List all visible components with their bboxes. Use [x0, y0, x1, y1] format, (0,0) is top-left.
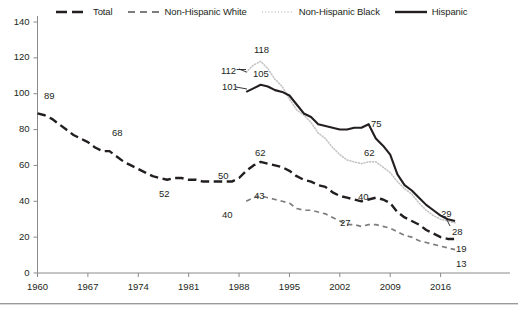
data-point-label: 19: [456, 243, 467, 254]
data-point-label: 68: [112, 127, 123, 138]
data-point-label: 62: [255, 147, 266, 158]
data-point-label: 28: [452, 226, 463, 237]
data-point-label: 89: [44, 90, 55, 101]
data-point-label: 52: [159, 188, 170, 199]
y-axis-tick-label: 60: [0, 159, 30, 170]
x-axis-tick-label: 1995: [269, 281, 309, 292]
y-axis-tick-label: 120: [0, 51, 30, 62]
y-axis-tick-label: 0: [0, 267, 30, 278]
data-point-label: 13: [456, 258, 467, 269]
series-line-non-hispanic-white: [246, 196, 455, 250]
data-point-label: 105: [253, 68, 269, 79]
series-line-total: [38, 113, 456, 239]
series-line-hispanic: [246, 85, 455, 221]
data-point-label: 29: [441, 208, 452, 219]
x-axis-tick-label: 1967: [68, 281, 108, 292]
x-axis-tick-label: 1988: [219, 281, 259, 292]
y-axis-tick-label: 140: [0, 16, 30, 27]
y-axis-tick-label: 80: [0, 123, 30, 134]
x-axis-tick-label: 1960: [18, 281, 58, 292]
x-axis-tick-label: 2016: [421, 281, 461, 292]
data-point-label: 40: [358, 191, 369, 202]
data-point-label: 75: [371, 118, 382, 129]
data-point-label: 43: [254, 190, 265, 201]
data-point-label: 40: [222, 209, 233, 220]
chart-axes: [34, 16, 511, 277]
y-axis-tick-label: 40: [0, 195, 30, 206]
data-point-label: 112: [221, 65, 236, 76]
chart-series: [38, 61, 456, 249]
data-point-label: 118: [254, 44, 269, 55]
x-axis-tick-label: 1974: [118, 281, 158, 292]
x-axis-tick-label: 2002: [320, 281, 360, 292]
data-point-label: 101: [222, 81, 238, 92]
bottom-divider: [0, 303, 518, 305]
chart-figure: Total Non-Hispanic White Non-Hispanic Bl…: [0, 0, 518, 312]
data-point-label: 62: [364, 147, 375, 158]
x-axis-tick-label: 2009: [370, 281, 410, 292]
y-axis-tick-label: 20: [0, 231, 30, 242]
series-line-non-hispanic-black: [246, 61, 455, 222]
data-point-label: 50: [218, 170, 229, 181]
data-point-label: 27: [340, 217, 351, 228]
x-axis-tick-label: 1981: [169, 281, 209, 292]
y-axis-tick-label: 100: [0, 87, 30, 98]
